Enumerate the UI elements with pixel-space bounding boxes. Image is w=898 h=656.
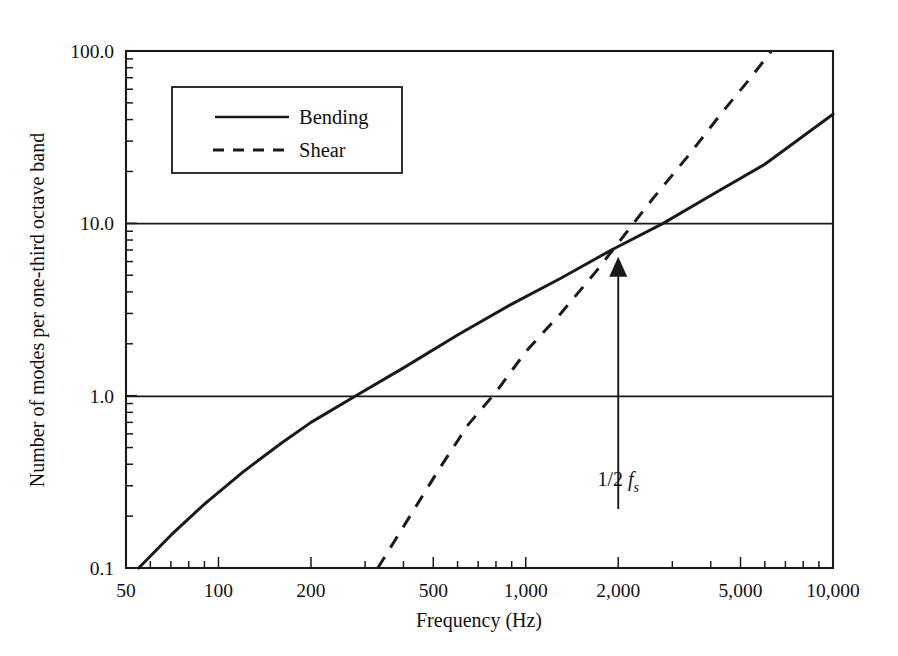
x-tick-label-5000: 5,000	[719, 580, 763, 601]
annotation-label-prefix: 1/2	[597, 468, 628, 490]
x-axis-title: Frequency (Hz)	[416, 609, 542, 632]
x-tick-label-500: 500	[419, 580, 448, 601]
legend-box	[172, 87, 402, 173]
x-tick-label-10000: 10,000	[806, 580, 860, 601]
y-axis-title: Number of modes per one-third octave ban…	[26, 133, 49, 487]
modes-per-third-octave-chart: Bending Shear 501002005001,0002,0005,000…	[0, 0, 898, 656]
x-tick-label-100: 100	[204, 580, 233, 601]
x-tick-label-50: 50	[116, 580, 136, 601]
chart-background	[0, 0, 898, 656]
y-tick-label-100: 100.0	[70, 41, 114, 62]
legend-label-bending: Bending	[299, 106, 368, 129]
x-tick-label-1000: 1,000	[504, 580, 548, 601]
legend: Bending Shear	[172, 87, 402, 173]
y-tick-label-1: 1.0	[90, 386, 114, 407]
y-tick-label-0.1: 0.1	[90, 558, 114, 579]
figure-root: Bending Shear 501002005001,0002,0005,000…	[0, 0, 898, 656]
y-tick-label-10: 10.0	[80, 213, 114, 234]
annotation-label-subscript: s	[634, 480, 640, 495]
x-tick-label-2000: 2,000	[596, 580, 640, 601]
legend-label-shear: Shear	[299, 139, 346, 161]
x-tick-label-200: 200	[296, 580, 325, 601]
